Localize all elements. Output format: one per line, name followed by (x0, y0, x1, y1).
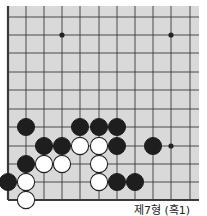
white-stone[interactable] (17, 191, 34, 208)
diagram-caption: 제7형 (흑1) (134, 205, 190, 216)
black-stone[interactable] (17, 155, 34, 172)
white-stone[interactable] (90, 137, 107, 154)
white-stone[interactable] (53, 155, 70, 172)
black-stone[interactable] (126, 173, 143, 190)
white-stone[interactable] (71, 137, 88, 154)
black-stone[interactable] (35, 137, 52, 154)
black-stone[interactable] (144, 137, 161, 154)
star-point-icon (59, 32, 64, 37)
black-stone[interactable] (17, 118, 34, 135)
black-stone[interactable] (108, 137, 125, 154)
star-point-icon (168, 143, 173, 148)
black-stone[interactable] (90, 118, 107, 135)
go-board (0, 0, 207, 216)
white-stone[interactable] (35, 155, 52, 172)
black-stone[interactable] (108, 173, 125, 190)
black-stone[interactable] (53, 137, 70, 154)
white-stone[interactable] (90, 173, 107, 190)
black-stone[interactable] (108, 118, 125, 135)
white-stone[interactable] (17, 173, 34, 190)
star-point-icon (168, 32, 173, 37)
black-stone[interactable] (71, 118, 88, 135)
white-stone[interactable] (90, 155, 107, 172)
black-stone[interactable] (0, 173, 17, 190)
